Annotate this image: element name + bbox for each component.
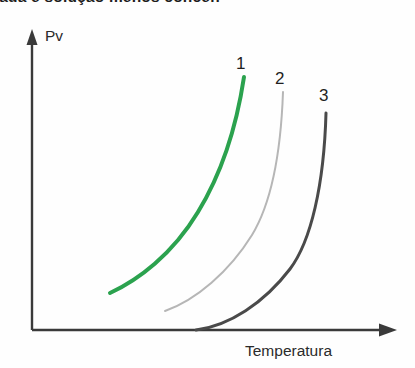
plot-canvas <box>0 0 415 368</box>
curve-series-1 <box>110 77 244 293</box>
curve-series-2 <box>165 92 283 311</box>
curves-group <box>110 77 326 330</box>
curve-label-1: 1 <box>236 54 245 74</box>
vapor-pressure-chart: ntrada e solução menos concen Pv Tempera… <box>0 0 415 368</box>
y-axis-arrowhead <box>27 29 38 45</box>
curve-label-2: 2 <box>275 69 284 89</box>
x-axis-title: Temperatura <box>245 342 332 360</box>
curve-series-3 <box>196 113 326 330</box>
curve-label-3: 3 <box>319 86 328 106</box>
x-axis-arrowhead <box>379 324 397 337</box>
y-axis-title: Pv <box>45 27 63 45</box>
